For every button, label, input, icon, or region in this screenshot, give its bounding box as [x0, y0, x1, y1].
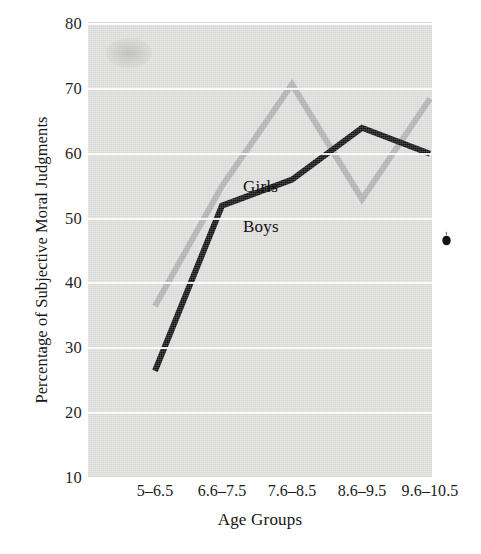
gridline-20 — [88, 412, 432, 414]
x-tick-label: 5–6.5 — [137, 482, 174, 500]
x-axis-title: Age Groups — [88, 510, 432, 530]
gridline-60 — [88, 153, 432, 155]
series-label-girls: Girls — [243, 177, 278, 197]
series-label-boys: Boys — [243, 217, 279, 237]
ink-blot-artifact — [441, 230, 452, 246]
x-tick-label: 8.6–9.5 — [338, 482, 387, 500]
x-tick-label: 6.6–7.5 — [198, 482, 247, 500]
x-tick-label: 9.6–10.5 — [402, 482, 459, 500]
plot-area: Girls Boys — [88, 22, 432, 478]
x-axis-ticks: 5–6.56.6–7.57.6–8.58.6–9.59.6–10.5 — [0, 482, 481, 506]
gridline-80 — [88, 23, 432, 25]
series-lines — [88, 22, 432, 478]
x-tick-label: 7.6–8.5 — [268, 482, 317, 500]
gridline-10 — [88, 477, 432, 478]
gridline-30 — [88, 347, 432, 349]
chart-figure: Girls Boys 8070605040302010 Percentage o… — [0, 0, 481, 554]
gridline-40 — [88, 282, 432, 284]
y-tick-label: 80 — [8, 16, 82, 32]
gridline-70 — [88, 88, 432, 90]
y-axis-title: Percentage of Subjective Moral Judgments — [32, 50, 52, 470]
